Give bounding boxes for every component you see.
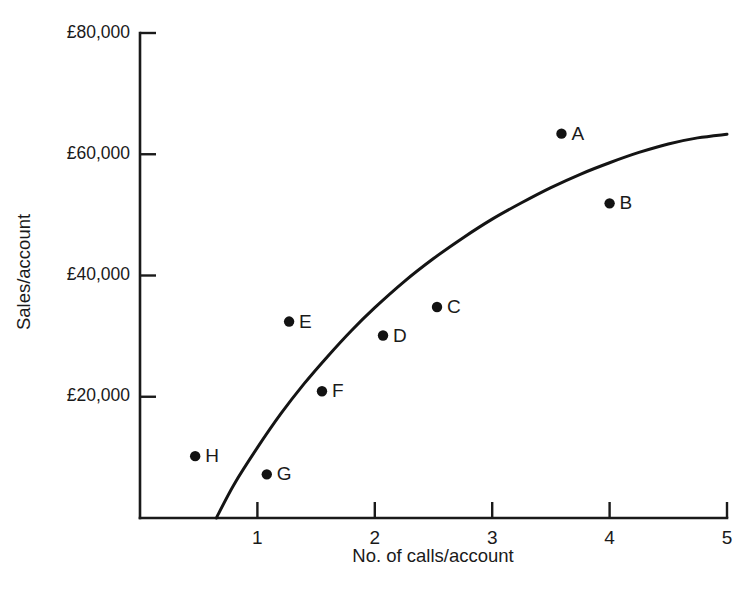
data-point-d: D (378, 325, 407, 346)
y-tick-label: £80,000 (67, 22, 131, 42)
data-point-label: G (277, 463, 292, 484)
chart-canvas: £20,000£40,000£60,000£80,000 12345 ABCDE… (0, 0, 751, 598)
data-point-marker (604, 198, 614, 208)
x-tick-label: 4 (604, 527, 615, 548)
x-axis-ticks (257, 502, 727, 518)
fit-curve (216, 134, 727, 518)
data-point-label: H (205, 445, 219, 466)
y-axis-title: Sales/account (13, 214, 34, 330)
data-point-label: B (620, 192, 633, 213)
data-point-marker (556, 128, 566, 138)
data-point-label: A (571, 123, 584, 144)
x-tick-label: 1 (252, 527, 263, 548)
y-tick-label: £40,000 (67, 264, 131, 284)
x-tick-label: 5 (722, 527, 733, 548)
y-tick-label: £60,000 (67, 143, 131, 163)
data-point-h: H (190, 445, 219, 466)
scatter-chart: £20,000£40,000£60,000£80,000 12345 ABCDE… (0, 0, 751, 598)
data-point-c: C (432, 296, 461, 317)
data-points-group: ABCDEFGH (190, 123, 632, 485)
data-point-a: A (556, 123, 584, 144)
data-point-label: D (393, 325, 407, 346)
data-point-marker (378, 330, 388, 340)
data-point-marker (262, 469, 272, 479)
data-point-marker (432, 302, 442, 312)
x-axis-title: No. of calls/account (352, 545, 513, 566)
axes-group (140, 33, 727, 518)
data-point-marker (284, 316, 294, 326)
data-point-label: F (332, 380, 344, 401)
data-point-label: E (299, 311, 312, 332)
data-point-g: G (262, 463, 292, 484)
data-point-e: E (284, 311, 312, 332)
y-axis-tick-labels: £20,000£40,000£60,000£80,000 (67, 22, 131, 406)
data-point-marker (190, 451, 200, 461)
data-point-b: B (604, 192, 632, 213)
y-tick-label: £20,000 (67, 385, 131, 405)
data-point-label: C (447, 296, 461, 317)
data-point-f: F (317, 380, 344, 401)
data-point-marker (317, 386, 327, 396)
y-axis-ticks (140, 33, 156, 397)
